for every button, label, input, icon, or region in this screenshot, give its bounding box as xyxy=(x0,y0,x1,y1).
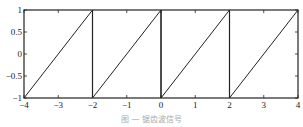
y-tick-label: 1 xyxy=(18,5,23,15)
x-tick-label: −3 xyxy=(53,100,63,110)
sawtooth-chart: −4−3−2−101234 −1−0.500.51 xyxy=(0,0,303,110)
x-tick-label: 1 xyxy=(193,100,198,110)
y-tick-label: 0.5 xyxy=(11,27,23,37)
sawtooth-line xyxy=(24,10,298,98)
x-tick-label: 3 xyxy=(262,100,267,110)
plot-area xyxy=(24,10,298,98)
y-tick-label: −1 xyxy=(12,93,22,103)
x-tick-label: 0 xyxy=(159,100,164,110)
y-axis-ticks: −1−0.500.51 xyxy=(6,5,298,103)
y-tick-label: 0 xyxy=(18,49,23,59)
x-tick-label: 4 xyxy=(296,100,301,110)
y-tick-label: −0.5 xyxy=(6,71,23,81)
x-tick-label: −2 xyxy=(88,100,98,110)
figure-caption: 图 — 锯齿波信号 xyxy=(0,113,303,124)
x-tick-label: 2 xyxy=(227,100,232,110)
x-tick-label: −1 xyxy=(122,100,132,110)
